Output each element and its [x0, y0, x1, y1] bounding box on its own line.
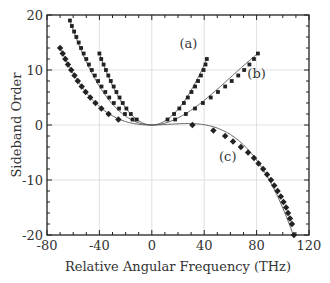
- diamond-marker: [274, 188, 280, 194]
- square-marker: [115, 90, 119, 94]
- square-marker: [98, 52, 102, 56]
- diamond-marker: [222, 133, 228, 139]
- x-tick-label: 80: [248, 238, 265, 253]
- square-marker: [112, 101, 116, 105]
- square-marker: [96, 79, 100, 83]
- sideband-chart: -80-4004080120 -20-1001020 (a)(b)(c) Rel…: [0, 0, 330, 283]
- square-marker: [109, 79, 113, 83]
- x-tick-label: 0: [148, 238, 156, 253]
- square-marker: [112, 85, 116, 89]
- diamond-marker: [68, 67, 74, 73]
- diamond-marker: [71, 72, 77, 78]
- diamond-marker: [57, 45, 63, 51]
- square-marker: [72, 30, 76, 34]
- square-marker: [236, 74, 240, 78]
- square-marker: [204, 63, 208, 67]
- diamond-marker: [271, 182, 277, 188]
- square-marker: [82, 52, 86, 56]
- curve-labels: (a)(b)(c): [180, 36, 266, 164]
- diamond-marker: [189, 122, 195, 128]
- curve-label: (c): [219, 149, 236, 164]
- x-tick-labels: -80-4004080120: [37, 238, 322, 253]
- fit-curve-b: [70, 21, 257, 125]
- y-tick-labels: -20-1001020: [22, 8, 43, 243]
- diamond-marker: [65, 61, 71, 67]
- chart-container: -80-4004080120 -20-1001020 (a)(b)(c) Rel…: [0, 0, 330, 283]
- square-marker: [199, 74, 203, 78]
- diamond-marker: [115, 116, 121, 122]
- square-marker: [193, 85, 197, 89]
- y-tick-label: 0: [35, 118, 43, 133]
- square-marker: [79, 46, 83, 50]
- fit-curve-a: [99, 54, 206, 126]
- square-marker: [256, 52, 260, 56]
- square-marker: [223, 85, 227, 89]
- square-marker: [216, 90, 220, 94]
- square-marker: [70, 24, 74, 28]
- square-marker: [184, 112, 188, 116]
- square-marker: [230, 79, 234, 83]
- diamond-marker: [62, 56, 68, 62]
- square-marker: [121, 101, 125, 105]
- square-marker: [135, 118, 139, 122]
- square-marker: [131, 118, 135, 122]
- curve-label: (b): [247, 66, 265, 81]
- square-marker: [182, 101, 186, 105]
- x-tick-label: 40: [196, 238, 213, 253]
- curve-label: (a): [180, 36, 198, 51]
- square-marker: [90, 68, 94, 72]
- square-marker: [106, 74, 110, 78]
- square-marker: [118, 96, 122, 100]
- data-markers: [57, 19, 297, 239]
- square-marker: [186, 96, 190, 100]
- y-tick-label: 20: [26, 8, 43, 23]
- square-marker: [87, 63, 91, 67]
- x-tick-label: 120: [297, 238, 322, 253]
- diamond-marker: [245, 149, 251, 155]
- square-marker: [103, 90, 107, 94]
- square-marker: [104, 68, 108, 72]
- x-axis-label: Relative Angular Frequency (THz): [65, 259, 291, 274]
- square-marker: [107, 96, 111, 100]
- square-marker: [177, 107, 181, 111]
- square-marker: [205, 57, 209, 61]
- square-marker: [102, 63, 106, 67]
- square-marker: [117, 107, 121, 111]
- square-marker: [68, 19, 72, 23]
- square-marker: [84, 57, 88, 61]
- square-marker: [77, 41, 81, 45]
- square-marker: [193, 107, 197, 111]
- y-tick-label: -20: [22, 228, 43, 243]
- square-marker: [93, 74, 97, 78]
- y-tick-label: -10: [22, 173, 43, 188]
- diamond-marker: [60, 50, 66, 56]
- square-marker: [166, 118, 170, 122]
- square-marker: [123, 112, 127, 116]
- square-marker: [100, 85, 104, 89]
- y-tick-label: 10: [26, 63, 43, 78]
- diamond-marker: [230, 138, 236, 144]
- square-marker: [74, 35, 78, 39]
- square-marker: [242, 68, 246, 72]
- diamond-marker: [210, 127, 216, 133]
- square-marker: [202, 68, 206, 72]
- square-marker: [172, 112, 176, 116]
- square-marker: [196, 79, 200, 83]
- diamond-marker: [75, 78, 81, 84]
- diamond-marker: [79, 83, 85, 89]
- square-marker: [190, 90, 194, 94]
- square-marker: [173, 118, 177, 122]
- grid-lines: [47, 15, 309, 235]
- y-axis-label: Sideband Order: [9, 72, 24, 178]
- diamond-marker: [268, 177, 274, 183]
- x-tick-label: -40: [89, 238, 110, 253]
- square-marker: [129, 112, 133, 116]
- square-marker: [252, 57, 256, 61]
- square-marker: [124, 107, 128, 111]
- square-marker: [201, 101, 205, 105]
- square-marker: [209, 96, 213, 100]
- square-marker: [99, 57, 103, 61]
